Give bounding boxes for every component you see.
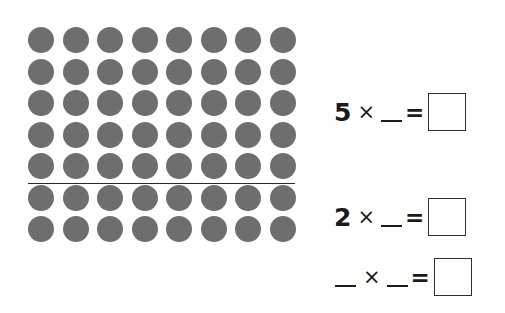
dot-row [28, 216, 296, 242]
array-dot [97, 59, 123, 85]
array-dot [166, 90, 192, 116]
array-dot [166, 27, 192, 53]
array-dot [270, 185, 296, 211]
array-dot [201, 59, 227, 85]
array-dot [270, 153, 296, 179]
array-dot [235, 59, 261, 85]
equals-sign-icon-3: = [411, 266, 430, 289]
array-dot [166, 216, 192, 242]
worksheet-canvas: 5 × = 2 × = × = [0, 0, 505, 313]
equation-2-second-factor-blank[interactable] [380, 207, 403, 227]
array-dot [63, 122, 89, 148]
array-dot [97, 122, 123, 148]
array-dot [63, 153, 89, 179]
array-dot [166, 59, 192, 85]
multiplication-sign-icon-2: × [357, 207, 375, 228]
multiplication-sign-icon: × [357, 102, 375, 123]
array-dot [201, 153, 227, 179]
array-dot [166, 122, 192, 148]
array-dot [235, 153, 261, 179]
equation-row-2: 2 × = [334, 195, 466, 239]
array-dot [235, 27, 261, 53]
array-dot [201, 185, 227, 211]
dot-row [28, 122, 296, 148]
array-dot [235, 185, 261, 211]
array-dot [28, 59, 54, 85]
array-dot [63, 185, 89, 211]
array-dot [28, 90, 54, 116]
array-dot [132, 59, 158, 85]
array-dot [132, 90, 158, 116]
array-dot [28, 27, 54, 53]
array-dot [63, 90, 89, 116]
equation-1-first-factor: 5 [334, 100, 351, 125]
equation-3-first-factor-blank[interactable] [334, 267, 357, 287]
dot-row [28, 90, 296, 116]
array-dot [235, 90, 261, 116]
equation-row-1: 5 × = [334, 90, 466, 134]
array-dot [97, 216, 123, 242]
array-dot [28, 185, 54, 211]
array-dot [28, 216, 54, 242]
equals-sign-icon-2: = [405, 206, 424, 229]
array-dot [235, 122, 261, 148]
array-dot [270, 122, 296, 148]
array-dot [270, 90, 296, 116]
equation-2-first-factor: 2 [334, 205, 351, 230]
array-dot [28, 153, 54, 179]
array-dot [63, 27, 89, 53]
array-dot [201, 216, 227, 242]
dot-row [28, 59, 296, 85]
array-dot [97, 27, 123, 53]
equation-3-second-factor-blank[interactable] [386, 267, 409, 287]
array-dot [270, 216, 296, 242]
array-dot [28, 122, 54, 148]
array-dot [97, 90, 123, 116]
array-dot [270, 59, 296, 85]
dot-row [28, 185, 296, 211]
equation-1-answer-box[interactable] [428, 93, 466, 131]
array-dot [166, 185, 192, 211]
dot-row [28, 27, 296, 53]
multiplication-sign-icon-3: × [363, 267, 381, 288]
array-dot [63, 216, 89, 242]
equation-row-3: × = [334, 255, 472, 299]
equation-1-second-factor-blank[interactable] [380, 102, 403, 122]
array-dot [132, 185, 158, 211]
array-dot [132, 216, 158, 242]
equation-2-answer-box[interactable] [428, 198, 466, 236]
array-dot [235, 216, 261, 242]
partition-line [28, 183, 295, 184]
dot-array [28, 27, 296, 241]
array-dot [97, 153, 123, 179]
array-dot [201, 27, 227, 53]
equation-3-answer-box[interactable] [434, 258, 472, 296]
dot-row [28, 153, 296, 179]
array-dot [132, 27, 158, 53]
equals-sign-icon-1: = [405, 101, 424, 124]
array-dot [201, 90, 227, 116]
array-dot [63, 59, 89, 85]
array-dot [270, 27, 296, 53]
array-dot [132, 122, 158, 148]
array-dot [97, 185, 123, 211]
array-dot [132, 153, 158, 179]
array-dot [166, 153, 192, 179]
array-dot [201, 122, 227, 148]
